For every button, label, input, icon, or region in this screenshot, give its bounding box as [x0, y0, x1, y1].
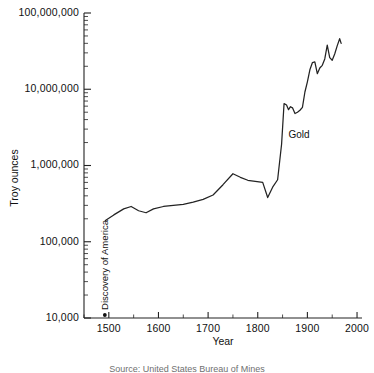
discovery-of-america-marker: [103, 313, 107, 317]
x-tick-label: 1700: [196, 322, 220, 334]
x-tick-label: 1900: [295, 322, 319, 334]
x-axis-title: Year: [212, 335, 234, 347]
x-axis-tick-labels: 150016001700180019002000: [97, 322, 369, 334]
y-axis-title: Troy ounces: [8, 149, 20, 206]
x-tick-label: 1500: [97, 322, 121, 334]
gold-production-chart-figure: 10,000100,0001,000,00010,000,000100,000,…: [0, 0, 374, 373]
annotation-gold-series: Gold: [289, 129, 310, 140]
x-tick-label: 1800: [246, 322, 270, 334]
y-tick-label: 10,000: [46, 311, 79, 323]
y-tick-label: 100,000,000: [18, 6, 79, 18]
x-tick-label: 2000: [345, 322, 369, 334]
y-axis-tick-labels: 10,000100,0001,000,00010,000,000100,000,…: [18, 6, 79, 323]
y-tick-label: 1,000,000: [30, 158, 79, 170]
y-tick-label: 100,000: [40, 235, 79, 247]
annotation-discovery-of-america: Discovery of America: [99, 219, 110, 310]
y-tick-label: 10,000,000: [24, 82, 79, 94]
y-axis-minor-ticks: [84, 16, 88, 295]
x-tick-label: 1600: [146, 322, 170, 334]
chart-canvas: 10,000100,0001,000,00010,000,000100,000,…: [0, 0, 374, 373]
figure-caption: Source: United States Bureau of Mines: [0, 364, 374, 373]
